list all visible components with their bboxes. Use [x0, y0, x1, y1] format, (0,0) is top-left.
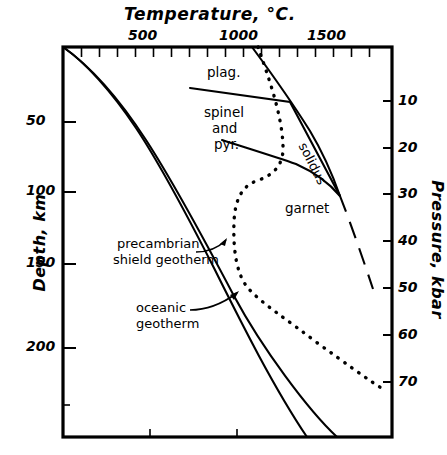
oceanic-annotation-line2: geotherm: [136, 316, 199, 331]
pyr-label: pyr.: [214, 136, 239, 152]
curve-solidus-dashed-extension: [340, 196, 373, 289]
bottom-axis-ticks: [63, 405, 237, 437]
right-tick-label-60: 60: [398, 326, 417, 342]
right-tick-label-30: 30: [398, 185, 417, 201]
right-axis-title: Pressure, kbar: [428, 180, 447, 320]
garnet-label: garnet: [285, 200, 329, 216]
top-axis-title: Temperature, °C.: [124, 4, 296, 24]
left-tick-label-100: 100: [26, 182, 55, 198]
phase-diagram-figure: Temperature, °C. 500 1000 1500 Depth, km…: [0, 0, 447, 455]
top-tick-label-1000: 1000: [219, 27, 258, 43]
left-axis-title: Depth, km: [30, 188, 49, 298]
precambrian-annotation-line2: shield geotherm: [113, 252, 219, 267]
and-label: and: [212, 120, 237, 136]
left-tick-label-200: 200: [26, 338, 55, 354]
left-tick-label-150: 150: [26, 254, 55, 270]
oceanic-annotation-line1: oceanic: [136, 300, 186, 315]
left-axis-ticks: [63, 122, 76, 348]
spinel-label: spinel: [204, 104, 244, 120]
right-tick-label-50: 50: [398, 279, 417, 295]
right-tick-label-20: 20: [398, 139, 417, 155]
right-tick-label-10: 10: [398, 92, 417, 108]
curve-solidus: [252, 47, 340, 196]
right-tick-label-40: 40: [398, 232, 417, 248]
right-tick-label-70: 70: [398, 373, 417, 389]
precambrian-annotation-line1: precambrian: [117, 236, 200, 251]
plag-label: plag.: [207, 64, 240, 80]
top-tick-label-500: 500: [128, 27, 157, 43]
left-tick-label-50: 50: [26, 112, 45, 128]
top-tick-label-1500: 1500: [307, 27, 346, 43]
